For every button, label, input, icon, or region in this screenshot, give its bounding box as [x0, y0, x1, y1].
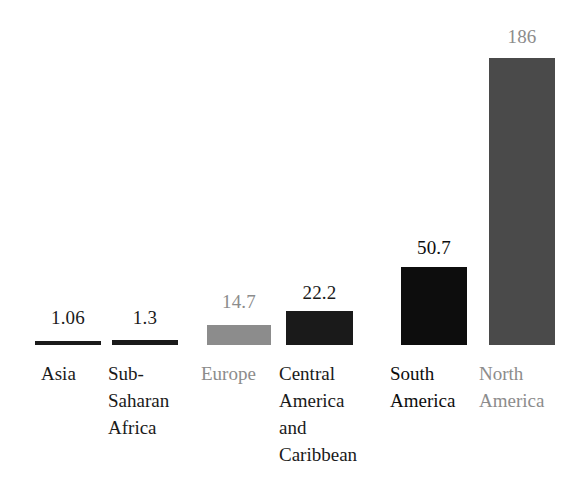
bar-column-sub-saharan-africa: 1.3 Sub- Saharan Africa [112, 0, 178, 482]
bar-value-label-sub-saharan-africa: 1.3 [112, 307, 178, 329]
bar-asia [35, 341, 101, 345]
bar-column-central-america-and-caribbean: 22.2 Central America and Caribbean [286, 0, 353, 482]
bar-north-america [489, 58, 555, 345]
bar-column-south-america: 50.7 South America [401, 0, 467, 482]
bar-value-label-europe: 14.7 [207, 291, 271, 313]
bar-central-america-and-caribbean [286, 311, 353, 345]
bar-column-north-america: 186 North America [489, 0, 555, 482]
bar-column-asia: 1.06 Asia [35, 0, 101, 482]
bar-value-label-central-america-and-caribbean: 22.2 [286, 282, 353, 304]
bar-south-america [401, 267, 467, 345]
plot-area: 1.06 Asia 1.3 Sub- Saharan Africa 14.7 E… [0, 0, 588, 482]
bar-value-label-south-america: 50.7 [401, 237, 467, 259]
bar-value-label-asia: 1.06 [35, 307, 101, 329]
bar-sub-saharan-africa [112, 340, 178, 345]
bar-europe [207, 325, 271, 345]
bar-chart: 1.06 Asia 1.3 Sub- Saharan Africa 14.7 E… [0, 0, 588, 482]
bar-column-europe: 14.7 Europe [207, 0, 271, 482]
bar-value-label-north-america: 186 [489, 26, 555, 48]
bar-category-label-north-america: North America [479, 360, 588, 414]
